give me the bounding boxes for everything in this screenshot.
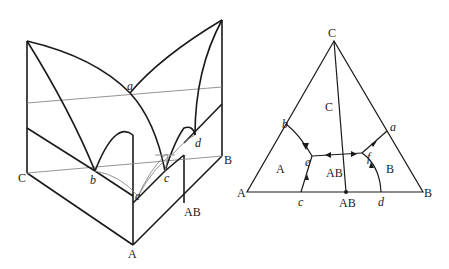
base-edge-ab <box>133 156 222 245</box>
label-vertex-c-3d: C <box>18 171 26 185</box>
left-3d-diagram: a b c d e C B A AB <box>18 20 232 261</box>
dome-ab <box>165 127 195 171</box>
face-ab-line-3 <box>184 104 222 143</box>
label-vertex-b-3d: B <box>224 153 232 167</box>
label-c: c <box>298 195 304 209</box>
face-ca-line <box>27 128 95 171</box>
label-d-3d: d <box>195 136 202 150</box>
label-vertex-c: C <box>328 26 336 40</box>
label-a: a <box>390 120 396 134</box>
label-vertex-a: A <box>237 186 246 200</box>
liquidus-a-to-b <box>130 20 222 93</box>
arrow-e-to-f <box>351 151 357 157</box>
face-ca-line-2 <box>95 171 133 196</box>
label-b-3d: b <box>90 173 96 187</box>
base-edge-ca <box>27 173 133 245</box>
label-a-3d: a <box>127 79 133 93</box>
label-d: d <box>378 195 385 209</box>
label-vertex-ab: AB <box>339 196 356 210</box>
right-ternary-diagram: C A B AB b a c d e f C A AB B <box>237 26 432 210</box>
region-ab: AB <box>326 166 343 180</box>
boundary-b-e <box>286 124 312 156</box>
label-vertex-ab-3d: AB <box>184 205 201 219</box>
label-c-3d: c <box>164 171 170 185</box>
liquidus-e-to-c <box>130 93 165 171</box>
arrow-f-to-e <box>325 152 331 158</box>
region-c: C <box>325 100 333 114</box>
label-vertex-b: B <box>424 186 432 200</box>
region-b: B <box>386 162 394 176</box>
label-vertex-a-3d: A <box>128 247 137 261</box>
label-b: b <box>282 117 288 131</box>
label-e: e <box>305 155 311 169</box>
phase-diagram-figure: a b c d e C B A AB C A B AB b a c <box>0 0 449 269</box>
boundary-d-f <box>362 153 381 192</box>
region-a: A <box>276 162 285 176</box>
boundary-a-f <box>362 131 387 153</box>
ab-composition-dot <box>344 190 348 194</box>
base-edge-cb <box>27 156 222 173</box>
label-e-3d: e <box>135 189 141 203</box>
